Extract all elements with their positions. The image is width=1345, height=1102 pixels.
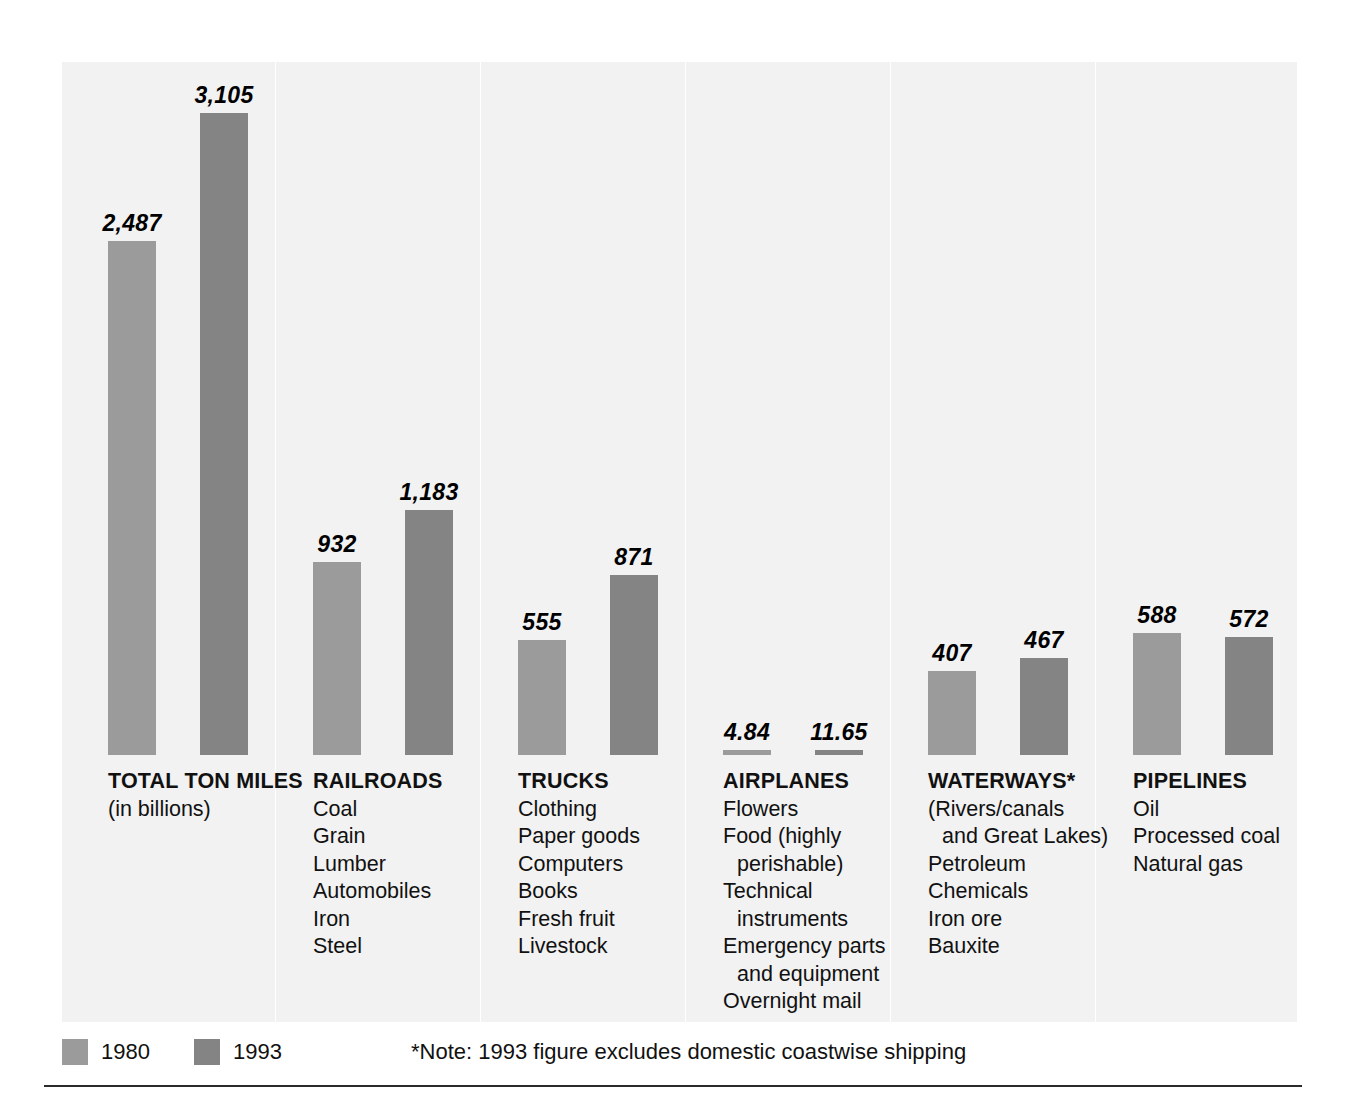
- bar-group-bars: 588572: [1095, 62, 1300, 755]
- bar-value-label: 2,487: [102, 210, 161, 237]
- bar-1993[interactable]: [1225, 637, 1273, 755]
- bar-1993[interactable]: [200, 113, 248, 755]
- bar-value-label: 3,105: [194, 82, 253, 109]
- bar-value-label: 572: [1229, 606, 1268, 633]
- bar-group-bars: 4.8411.65: [685, 62, 890, 755]
- bar-value-label: 588: [1137, 602, 1176, 629]
- bar-value-label: 11.65: [810, 719, 867, 746]
- chart-legend: 19801993: [62, 1035, 326, 1069]
- bar-1980[interactable]: [108, 241, 156, 755]
- legend-label: 1993: [233, 1039, 282, 1065]
- category-item: Processed coal: [1133, 823, 1343, 851]
- bar-value-label: 1,183: [399, 479, 458, 506]
- bar-slot: 588: [1133, 599, 1181, 755]
- bar-group-bars: 555871: [480, 62, 685, 755]
- bar-slot: 467: [1020, 624, 1068, 755]
- bar-slot: 555: [518, 606, 566, 755]
- bar-slot: 572: [1225, 603, 1273, 755]
- bar-group-bars: 407467: [890, 62, 1095, 755]
- bar-group-bars: 2,4873,105: [70, 62, 275, 755]
- bar-1993[interactable]: [1020, 658, 1068, 755]
- bar-group: 9321,183RAILROADSCoalGrainLumberAutomobi…: [275, 62, 480, 1022]
- footnote: *Note: 1993 figure excludes domestic coa…: [411, 1035, 966, 1069]
- bar-slot: 871: [610, 541, 658, 755]
- bar-value-label: 555: [522, 609, 561, 636]
- bar-value-label: 4.84: [724, 719, 770, 746]
- bar-value-label: 932: [317, 531, 356, 558]
- plot-panel: 2,4873,105TOTAL TON MILES(in billions)93…: [62, 62, 1297, 1022]
- category-item: Natural gas: [1133, 851, 1343, 879]
- bar-1980[interactable]: [928, 671, 976, 755]
- bar-1980[interactable]: [518, 640, 566, 755]
- bar-1980[interactable]: [313, 562, 361, 755]
- bar-group-bars: 9321,183: [275, 62, 480, 755]
- bottom-rule: [44, 1085, 1302, 1087]
- bar-value-label: 467: [1024, 627, 1063, 654]
- legend-swatch: [62, 1039, 88, 1065]
- legend-entry[interactable]: 1980: [62, 1039, 150, 1065]
- bar-1993[interactable]: [610, 575, 658, 755]
- legend-swatch: [194, 1039, 220, 1065]
- bar-slot: 2,487: [108, 207, 156, 755]
- bar-slot: 4.84: [723, 716, 771, 755]
- bar-slot: 1,183: [405, 476, 453, 755]
- footnote-text: *Note: 1993 figure excludes domestic coa…: [411, 1039, 966, 1065]
- bar-slot: 11.65: [815, 716, 863, 755]
- bar-chart-figure: 2,4873,105TOTAL TON MILES(in billions)93…: [0, 0, 1345, 1102]
- bar-1980[interactable]: [1133, 633, 1181, 755]
- legend-label: 1980: [101, 1039, 150, 1065]
- bar-slot: 407: [928, 637, 976, 755]
- category-title: PIPELINES: [1133, 768, 1343, 796]
- bar-group: 4.8411.65AIRPLANESFlowersFood (highlyper…: [685, 62, 890, 1022]
- bar-slot: 932: [313, 528, 361, 755]
- bar-group: 588572PIPELINESOilProcessed coalNatural …: [1095, 62, 1300, 1022]
- bar-1980[interactable]: [723, 750, 771, 755]
- bar-1993[interactable]: [405, 510, 453, 755]
- legend-entry[interactable]: 1993: [194, 1039, 282, 1065]
- bar-slot: 3,105: [200, 79, 248, 755]
- category-item: Oil: [1133, 796, 1343, 824]
- bar-group: 2,4873,105TOTAL TON MILES(in billions): [70, 62, 275, 1022]
- bar-1993[interactable]: [815, 750, 863, 755]
- bar-value-label: 871: [614, 544, 653, 571]
- bar-group: 555871TRUCKSClothingPaper goodsComputers…: [480, 62, 685, 1022]
- bar-group: 407467WATERWAYS*(Rivers/canalsand Great …: [890, 62, 1095, 1022]
- bar-value-label: 407: [932, 640, 971, 667]
- category-block: PIPELINESOilProcessed coalNatural gas: [1133, 768, 1343, 878]
